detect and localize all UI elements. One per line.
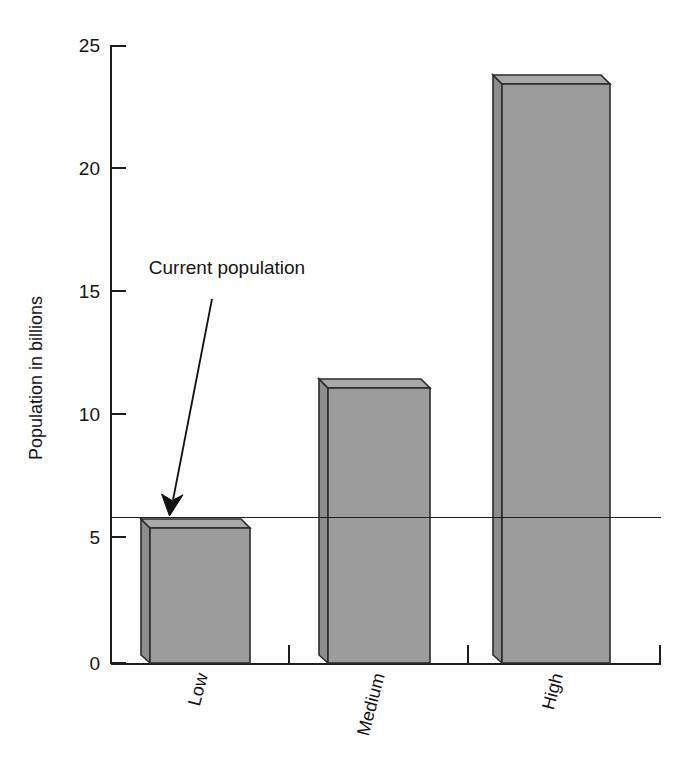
bar-top-low — [141, 519, 250, 528]
chart-container: 25 20 15 10 5 0 Population in billions — [0, 0, 678, 769]
bar-side-low — [141, 519, 150, 663]
current-population-annotation-label: Current population — [149, 257, 305, 278]
y-tick-label-10: 10 — [79, 404, 100, 425]
bar-group-medium[interactable] — [319, 379, 430, 663]
y-tick-label-20: 20 — [79, 158, 100, 179]
bar-front-low — [150, 528, 250, 663]
bar-side-medium — [319, 379, 328, 663]
bar-top-high — [493, 75, 610, 84]
bar-top-medium — [319, 379, 430, 388]
bar-group-high[interactable] — [493, 75, 610, 663]
y-tick-label-15: 15 — [79, 281, 100, 302]
bar-group-low[interactable] — [141, 519, 250, 663]
bar-front-medium — [328, 388, 430, 663]
population-projection-bar-chart: 25 20 15 10 5 0 Population in billions — [0, 0, 678, 769]
bar-side-high — [493, 75, 502, 663]
bar-front-high — [502, 84, 610, 663]
y-tick-label-5: 5 — [89, 527, 100, 548]
y-tick-label-0: 0 — [89, 653, 100, 674]
y-axis-title: Population in billions — [26, 296, 46, 460]
y-tick-label-25: 25 — [79, 35, 100, 56]
